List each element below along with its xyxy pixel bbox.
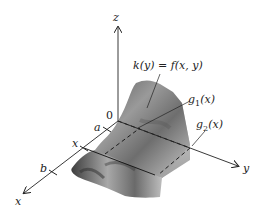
g1-label: g1(x) — [188, 94, 215, 108]
x-axis-label: x — [15, 196, 21, 207]
iterated-integral-diagram: z y x 0 a x b k(y) = f(x, y) g1(x) g2(x) — [0, 0, 258, 218]
tick-label-b: b — [40, 163, 47, 174]
tick-label-a: a — [94, 122, 101, 133]
z-axis-label: z — [113, 12, 119, 23]
g2-name: g — [196, 118, 203, 131]
tick-label-x: x — [72, 138, 78, 149]
origin-label: 0 — [106, 110, 113, 121]
y-axis-label: y — [243, 163, 249, 174]
diagram-graphics — [0, 0, 258, 218]
g2-label: g2(x) — [196, 119, 223, 133]
g2-arg: (x) — [208, 118, 223, 131]
g1-arg: (x) — [200, 93, 215, 106]
leader-g2 — [192, 131, 205, 146]
g1-name: g — [188, 93, 195, 106]
cross-section-label: k(y) = f(x, y) — [133, 60, 203, 71]
